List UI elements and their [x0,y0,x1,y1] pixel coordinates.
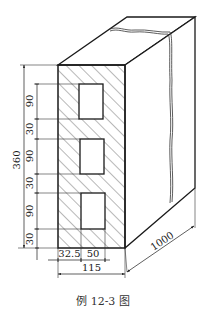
dim-115-label: 115 [82,262,101,273]
hole-1 [79,84,103,119]
figure-caption: 例 12-3 图 [0,292,206,308]
dim-360-label: 360 [11,150,22,169]
hole-2 [80,139,104,174]
dim-seg-6: 30 [24,233,35,246]
dim-seg-1: 90 [24,95,35,108]
dim-hole-width-label: 50 [87,248,100,259]
block-drawing: 360 90 30 90 30 90 30 32.5 50 115 1000 [0,0,206,315]
dim-seg-5: 90 [24,205,35,218]
dim-1000-label: 1000 [148,229,175,252]
hole-3 [81,193,105,229]
dim-seg-4: 30 [24,177,35,190]
dim-seg-2: 30 [24,123,35,136]
dim-seg-3: 90 [24,150,35,163]
dim-1000-ext [125,248,127,272]
dim-offset-label: 32.5 [58,248,80,259]
